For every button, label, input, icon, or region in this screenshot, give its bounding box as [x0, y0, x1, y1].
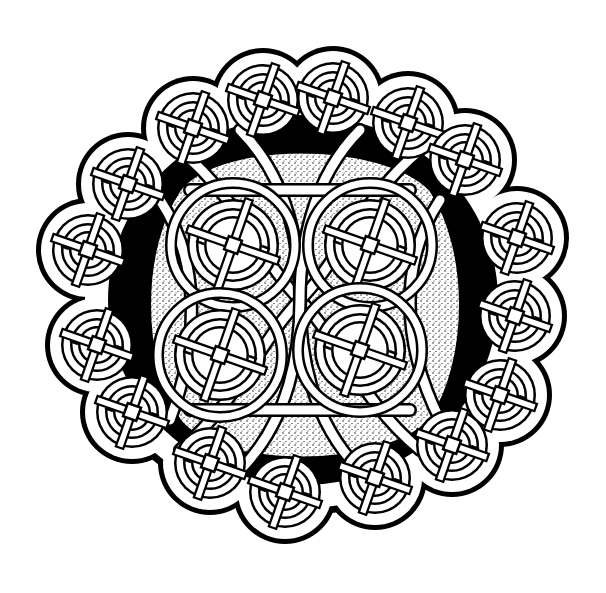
- rim-knot: [157, 92, 229, 164]
- rim-knot: [481, 202, 553, 274]
- rim-knot: [249, 456, 321, 528]
- rim-knot: [297, 62, 369, 134]
- rim-knot: [92, 148, 164, 220]
- rim-knot: [61, 309, 133, 381]
- rim-knot: [174, 427, 246, 499]
- rim-knot: [429, 124, 501, 196]
- inner-knot: [314, 304, 406, 396]
- inner-knot: [187, 199, 279, 291]
- rim-knot: [227, 64, 299, 136]
- rim-knot: [96, 376, 168, 448]
- rim-knot: [479, 280, 551, 352]
- rim-knot: [416, 409, 488, 481]
- celtic-knot-illustration: [0, 0, 606, 593]
- inner-knot: [324, 199, 416, 291]
- rim-knot: [52, 214, 124, 286]
- inner-knot: [174, 309, 266, 401]
- rim-knot: [339, 442, 411, 514]
